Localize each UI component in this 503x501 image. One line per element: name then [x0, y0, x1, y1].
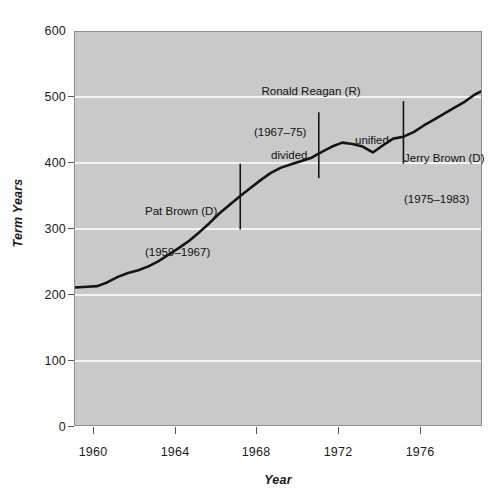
x-axis-title: Year: [74, 473, 482, 487]
x-tick-mark-1964: [175, 427, 176, 434]
x-tick-label-1972: 1972: [308, 446, 368, 459]
x-tick-mark-1968: [256, 427, 257, 434]
annotation-divided: divided: [271, 122, 307, 190]
x-tick-mark-1972: [338, 427, 339, 434]
annotation-pat-brown-line2: (1959–1967): [145, 246, 240, 260]
annotation-jerry-brown-line2: (1975–1983): [404, 193, 503, 207]
annotation-jerry-brown-line1: Jerry Brown (D): [404, 152, 503, 166]
x-tick-label-1968: 1968: [226, 446, 286, 459]
annotation-jerry-brown: Jerry Brown (D) (1975–1983): [404, 125, 503, 233]
x-tick-mark-1960: [93, 427, 94, 434]
annotation-ronald-reagan-line1: Ronald Reagan (R): [236, 85, 386, 99]
chart-figure: 600 500 400 300 200 100 0 Term Years 196…: [0, 0, 503, 501]
x-tick-label-1976: 1976: [390, 446, 450, 459]
x-tick-label-1964: 1964: [145, 446, 205, 459]
annotation-pat-brown-line1: Pat Brown (D): [145, 205, 240, 219]
x-tick-label-1960: 1960: [63, 446, 123, 459]
annotation-pat-brown: Pat Brown (D) (1959–1967): [145, 178, 240, 286]
x-tick-mark-1976: [420, 427, 421, 434]
annotation-unified: unified: [355, 107, 389, 175]
annotation-unified-label: unified: [355, 134, 389, 148]
annotation-divided-label: divided: [271, 149, 307, 163]
